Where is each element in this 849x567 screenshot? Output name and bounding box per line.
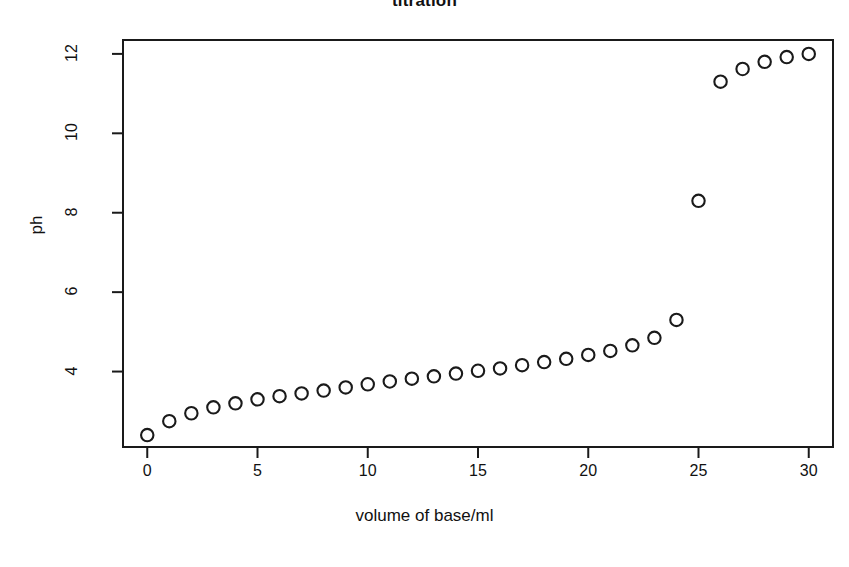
data-point — [251, 393, 263, 405]
data-point — [472, 365, 484, 377]
y-axis-label: ph — [27, 202, 47, 248]
data-point — [516, 359, 528, 371]
x-axis-label: volume of base/ml — [0, 506, 849, 526]
y-tick-label: 6 — [63, 271, 81, 311]
data-point — [163, 415, 175, 427]
data-point — [185, 407, 197, 419]
plot-canvas — [0, 0, 849, 567]
data-point — [560, 353, 572, 365]
y-tick-label: 10 — [63, 112, 81, 152]
x-tick-label: 5 — [238, 462, 278, 480]
data-point — [406, 373, 418, 385]
data-point — [758, 56, 770, 68]
data-point — [384, 375, 396, 387]
x-tick-label: 30 — [789, 462, 829, 480]
x-tick-label: 15 — [458, 462, 498, 480]
x-tick-label: 25 — [678, 462, 718, 480]
data-point — [781, 51, 793, 63]
titration-chart: titration 051015202530 4681012 volume of… — [0, 0, 849, 567]
data-point — [604, 345, 616, 357]
data-point — [340, 381, 352, 393]
x-tick-label: 10 — [348, 462, 388, 480]
data-point — [428, 370, 440, 382]
data-point — [648, 332, 660, 344]
x-tick-label: 20 — [568, 462, 608, 480]
plot-frame — [123, 40, 833, 447]
data-point — [229, 397, 241, 409]
x-tick-label: 0 — [127, 462, 167, 480]
data-point — [736, 63, 748, 75]
x-axis-ticks — [147, 447, 808, 458]
y-tick-label: 8 — [63, 192, 81, 232]
data-point — [317, 384, 329, 396]
data-point — [670, 314, 682, 326]
data-point — [803, 48, 815, 60]
data-points — [141, 48, 815, 442]
data-point — [295, 387, 307, 399]
data-point — [450, 367, 462, 379]
y-tick-label: 12 — [63, 33, 81, 73]
data-point — [362, 378, 374, 390]
data-point — [141, 429, 153, 441]
data-point — [692, 195, 704, 207]
data-point — [273, 390, 285, 402]
data-point — [582, 349, 594, 361]
data-point — [626, 339, 638, 351]
data-point — [494, 362, 506, 374]
y-axis-ticks — [112, 54, 123, 372]
y-tick-label: 4 — [63, 351, 81, 391]
data-point — [538, 356, 550, 368]
data-point — [207, 401, 219, 413]
data-point — [714, 75, 726, 87]
